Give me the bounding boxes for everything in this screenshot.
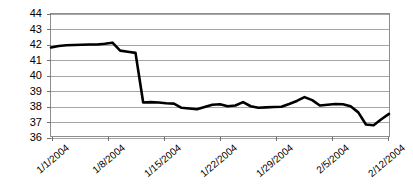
- y-axis-label: 40: [30, 70, 42, 80]
- plot-area: [50, 13, 390, 137]
- x-axis-label: 1/8/2004: [90, 142, 127, 175]
- line-chart: 363738394041424344 1/1/20041/8/20041/15/…: [0, 0, 413, 191]
- x-axis-label: 1/22/2004: [198, 142, 239, 179]
- y-axis-label: 44: [30, 8, 42, 18]
- y-axis-label: 43: [30, 24, 42, 34]
- y-axis-label: 39: [30, 86, 42, 96]
- x-axis-labels: 1/1/20041/8/20041/15/20041/22/20041/29/2…: [0, 137, 413, 191]
- x-axis-label: 2/5/2004: [314, 142, 351, 175]
- x-axis-label: 1/1/2004: [34, 142, 71, 175]
- series-line: [51, 14, 389, 136]
- y-axis-label: 38: [30, 101, 42, 111]
- y-axis-label: 42: [30, 39, 42, 49]
- x-axis-label: 2/12/2004: [366, 142, 407, 179]
- y-axis-label: 37: [30, 117, 42, 127]
- y-axis-label: 41: [30, 55, 42, 65]
- series-polyline: [51, 43, 389, 126]
- y-axis: 363738394041424344: [0, 0, 48, 150]
- x-axis-label: 1/15/2004: [142, 142, 183, 179]
- x-axis-label: 1/29/2004: [254, 142, 295, 179]
